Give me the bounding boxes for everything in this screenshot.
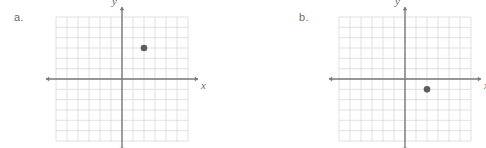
problem-a-label: a. — [14, 11, 24, 23]
y-axis-arrow-up — [120, 7, 125, 10]
x-axis-arrow-right — [195, 77, 198, 82]
x-axis-arrow-right — [478, 77, 481, 82]
data-points — [141, 45, 148, 52]
x-axis-label: x — [200, 79, 206, 91]
axes — [46, 7, 198, 148]
problem-b-label: b. — [299, 11, 309, 23]
plotted-point — [141, 45, 148, 52]
coordinate-plane-b: xy — [339, 17, 471, 141]
graph-b: xy — [339, 17, 471, 141]
y-axis-label: y — [394, 0, 400, 7]
y-axis-arrow-up — [403, 7, 408, 10]
data-points — [424, 86, 431, 93]
x-axis-arrow-left — [46, 77, 49, 82]
y-axis-label: y — [111, 0, 117, 7]
axes — [329, 7, 481, 148]
problem-b: b. xy — [243, 0, 486, 148]
worksheet-container: a. xy b. xy — [0, 0, 486, 148]
graph-a: xy — [56, 17, 188, 141]
problem-a: a. xy — [0, 0, 243, 148]
x-axis-arrow-left — [329, 77, 332, 82]
plotted-point — [424, 86, 431, 93]
coordinate-plane-a: xy — [56, 17, 188, 141]
